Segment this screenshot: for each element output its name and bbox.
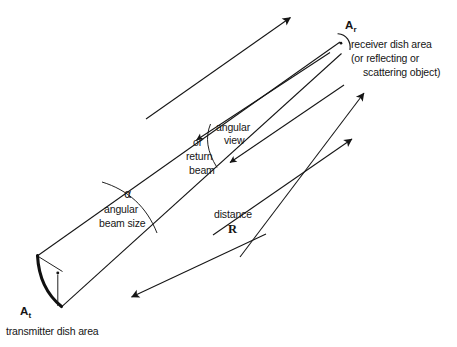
beam-upper-edge [38,42,340,256]
distance-arrow-toward-receiver-upper [213,139,352,235]
receiver-area-symbol: Ar [345,19,356,34]
alpha-caption-line-2: beam size [99,217,146,230]
transmitter-area-symbol: At [20,305,31,320]
radar-beam-diagram: Ar receiver dish area (or reflecting or … [0,0,457,347]
distance-arrow-toward-transmitter [132,234,267,297]
transmitter-caption: transmitter dish area [6,325,99,338]
receiver-dish-arc [338,34,350,50]
return-beam-line-2: return [186,150,213,163]
outgoing-beam-arrow [146,18,291,120]
alpha-caption-line-1: angular [104,203,138,216]
receiver-caption-line-3: scattering object) [363,66,440,79]
angular-view-line-2: view [224,134,244,147]
receiver-caption-line-1: receiver dish area [351,38,432,51]
receiver-caption-line-2: (or reflecting or [351,52,419,65]
receiver-focus-dot [340,42,343,45]
transmitter-feed-upper-line [38,256,63,271]
return-beam-line-1: or [193,136,202,149]
angular-view-line-1: angular [216,121,250,134]
alpha-symbol: α [124,188,131,201]
return-beam-line-3: beam [189,164,215,177]
transmitter-focus-dot [56,272,59,275]
distance-symbol: R [228,223,237,236]
distance-label: distance [214,208,252,221]
distance-arrow-toward-receiver-lower [240,93,364,257]
beam-lower-edge [62,54,342,307]
